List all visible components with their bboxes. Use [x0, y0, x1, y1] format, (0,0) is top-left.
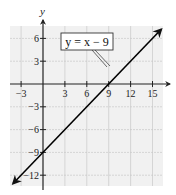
x-tick-label: 15 [148, 88, 158, 99]
line-graph: −33691215 63−3−6−9−12 y y = x − 9 [0, 0, 176, 195]
x-tick-label: 9 [106, 88, 111, 99]
y-tick-label: −3 [28, 101, 39, 112]
x-tick-label: −3 [16, 88, 27, 99]
y-tick-label: −9 [28, 147, 39, 158]
x-tick-label: 3 [62, 88, 67, 99]
y-tick-label: −6 [28, 124, 39, 135]
x-tick-label: 12 [126, 88, 136, 99]
x-tick-label: 6 [84, 88, 89, 99]
y-axis-label: y [39, 5, 45, 17]
y-tick-label: 3 [34, 56, 39, 67]
y-tick-label: 6 [34, 33, 39, 44]
equation-label: y = x − 9 [65, 35, 109, 49]
